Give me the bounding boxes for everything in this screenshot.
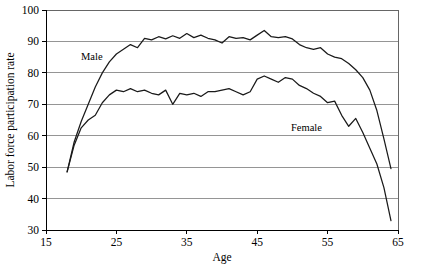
y-axis-ticks: 30405060708090100 bbox=[22, 4, 46, 236]
x-tick-label-45: 45 bbox=[251, 236, 263, 248]
chart-container: 30405060708090100 152535455565 MaleFemal… bbox=[0, 0, 425, 266]
x-axis-ticks: 152535455565 bbox=[40, 230, 404, 248]
y-tick-label-60: 60 bbox=[28, 130, 40, 142]
x-axis-title: Age bbox=[212, 251, 231, 264]
y-tick-label-50: 50 bbox=[28, 161, 40, 173]
series-annotation-female: Female bbox=[291, 122, 322, 133]
x-tick-label-25: 25 bbox=[111, 236, 123, 248]
y-tick-label-90: 90 bbox=[28, 35, 40, 47]
y-tick-label-70: 70 bbox=[28, 98, 40, 110]
x-tick-label-35: 35 bbox=[181, 236, 193, 248]
x-tick-label-55: 55 bbox=[322, 236, 334, 248]
y-axis-title: Labor force participation rate bbox=[4, 52, 17, 187]
x-tick-label-65: 65 bbox=[392, 236, 404, 248]
y-tick-label-40: 40 bbox=[28, 193, 40, 205]
y-tick-label-100: 100 bbox=[22, 4, 40, 16]
x-tick-label-15: 15 bbox=[40, 236, 52, 248]
y-tick-label-30: 30 bbox=[28, 224, 40, 236]
series-annotation-male: Male bbox=[81, 51, 103, 62]
labor-force-participation-line-chart: 30405060708090100 152535455565 MaleFemal… bbox=[0, 0, 425, 266]
y-tick-label-80: 80 bbox=[28, 67, 40, 79]
